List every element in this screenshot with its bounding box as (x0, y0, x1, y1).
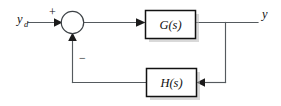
summing-junction-minus-sign: − (79, 51, 86, 65)
input-signal-subscript: d (24, 19, 29, 29)
block-diagram-canvas: G(s) H(s) y d y + − (0, 0, 281, 106)
feedback-block-label: H(s) (159, 76, 182, 90)
input-signal-label: y (15, 12, 23, 26)
forward-block-label: G(s) (159, 18, 181, 32)
summing-junction-plus-sign: + (49, 5, 56, 19)
block-diagram-svg: G(s) H(s) y d y + − (0, 0, 281, 106)
summing-junction (61, 11, 83, 33)
error-arrowhead (136, 18, 146, 27)
output-signal-label: y (260, 7, 268, 21)
